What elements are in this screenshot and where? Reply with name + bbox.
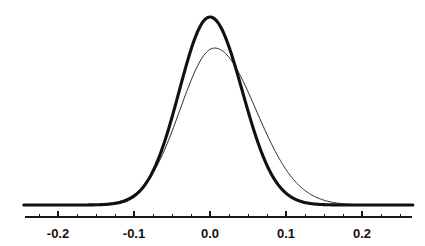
x-axis-tick-label: 0.2 [353, 226, 371, 241]
plot-canvas: -0.2-0.10.00.10.2 [0, 0, 425, 246]
x-axis-major-ticks [58, 211, 362, 217]
x-axis-tick-label: 0.1 [277, 226, 295, 241]
x-axis [25, 211, 412, 217]
x-axis-tick-label: -0.2 [47, 226, 69, 241]
curves-group [24, 17, 413, 205]
density-plot-figure: -0.2-0.10.00.10.2 [0, 0, 425, 246]
density-curve-thin [24, 48, 413, 205]
x-axis-tick-labels: -0.2-0.10.00.10.2 [47, 226, 371, 241]
density-curve-thick [24, 17, 413, 205]
x-axis-tick-label: 0.0 [201, 226, 219, 241]
x-axis-tick-label: -0.1 [123, 226, 145, 241]
